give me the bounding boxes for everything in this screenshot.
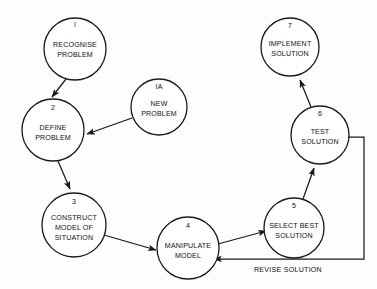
node-3-label-line-2: MODEL OF — [55, 224, 94, 232]
node-1a-label-line-2: PROBLEM — [141, 110, 177, 118]
edge-1a-to-2 — [87, 118, 132, 134]
node-define-problem[interactable]: 2 DEFINE PROBLEM — [22, 99, 84, 161]
node-2-number: 2 — [51, 104, 55, 111]
node-construct-model[interactable]: 3 CONSTRUCT MODEL OF SITUATION — [42, 193, 106, 257]
node-4-number: 4 — [186, 222, 190, 229]
node-1-label-line-2: PROBLEM — [57, 51, 93, 59]
flowchart-canvas: I RECOGNISE PROBLEM IA NEW PROBLEM 2 DEF… — [0, 0, 377, 289]
node-recognise-problem[interactable]: I RECOGNISE PROBLEM — [44, 18, 106, 80]
node-6-label-line-1: TEST — [311, 128, 330, 136]
edge-6-to-7 — [300, 80, 311, 107]
edge-5-to-6 — [303, 168, 314, 199]
edge-2-to-3 — [58, 161, 70, 189]
flowchart-diagram: I RECOGNISE PROBLEM IA NEW PROBLEM 2 DEF… — [0, 0, 377, 289]
node-3-label-line-3: SITUATION — [55, 234, 94, 242]
node-1-label-line-1: RECOGNISE — [53, 41, 97, 49]
node-6-label-line-2: SOLUTION — [301, 138, 338, 146]
revise-solution-label: REVISE SOLUTION — [254, 266, 322, 274]
node-1-number: I — [74, 21, 76, 28]
node-4-label-line-1: MANIPULATE — [165, 242, 211, 250]
node-3-label-line-1: CONSTRUCT — [51, 214, 97, 222]
node-new-problem[interactable]: IA NEW PROBLEM — [131, 79, 187, 135]
node-1a-label-line-1: NEW — [151, 100, 168, 108]
node-test-solution[interactable]: 6 TEST SOLUTION — [291, 106, 349, 164]
node-7-label-line-2: SOLUTION — [271, 50, 308, 58]
node-4-label-line-2: MODEL — [175, 252, 201, 260]
node-1a-number: IA — [155, 83, 162, 90]
node-5-label-line-2: SOLUTION — [275, 232, 312, 240]
edge-4-to-5 — [218, 231, 266, 244]
node-3-number: 3 — [72, 198, 76, 205]
node-2-label-line-2: PROBLEM — [35, 134, 71, 142]
node-manipulate-model[interactable]: 4 MANIPULATE MODEL — [157, 217, 219, 279]
node-5-number: 5 — [292, 202, 296, 209]
node-7-label-line-1: IMPLEMENT — [269, 40, 312, 48]
edge-3-to-4 — [104, 235, 156, 250]
node-5-label-line-1: SELECT BEST — [269, 222, 319, 230]
node-select-best-solution[interactable]: 5 SELECT BEST SOLUTION — [264, 198, 324, 258]
node-2-label-line-1: DEFINE — [40, 124, 67, 132]
node-implement-solution[interactable]: 7 IMPLEMENT SOLUTION — [261, 18, 319, 76]
node-6-number: 6 — [318, 110, 322, 117]
edge-1-to-2 — [52, 79, 66, 97]
node-7-number: 7 — [288, 22, 292, 29]
